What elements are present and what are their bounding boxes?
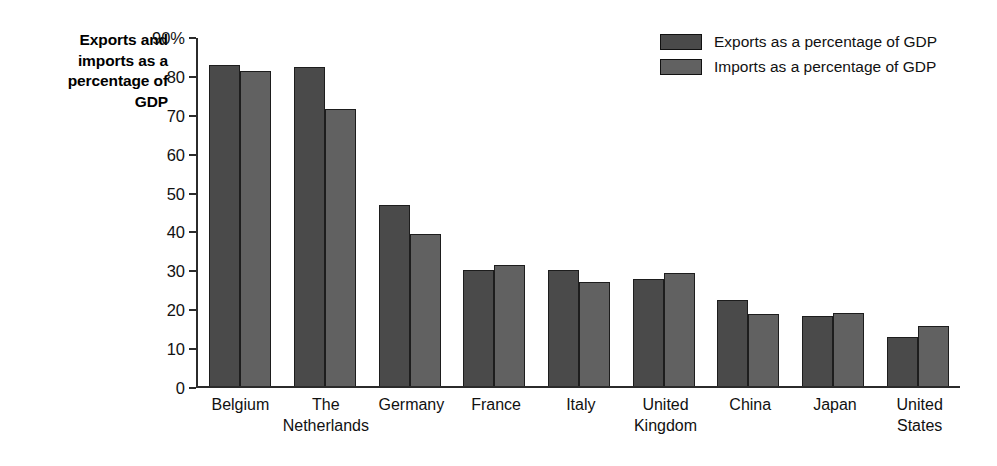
axis-title-line: percentage of: [20, 71, 168, 92]
y-tick-label: 90%: [152, 29, 185, 48]
category-label: UnitedKingdom: [623, 394, 708, 436]
y-tick-label: 40: [167, 223, 185, 242]
y-tick-label: 10: [167, 340, 185, 359]
category-label-line: The: [283, 394, 369, 415]
x-axis-line: [196, 386, 960, 388]
bar-chart: Exports andimports as apercentage ofGDP …: [0, 0, 997, 466]
y-tick-label: 70: [167, 106, 185, 125]
category-label: TheNetherlands: [283, 394, 369, 436]
category-label: China: [708, 394, 793, 436]
bar-imports: [918, 326, 949, 386]
category-label-line: Germany: [369, 394, 454, 415]
bar-imports: [494, 265, 525, 386]
category-label-line: Italy: [538, 394, 623, 415]
bar-exports: [802, 316, 833, 386]
bar-exports: [887, 337, 918, 386]
y-tick: [189, 309, 196, 311]
bar-group: [875, 38, 960, 386]
category-label: Belgium: [198, 394, 283, 436]
bar-group: [367, 38, 452, 386]
bar-imports: [240, 71, 271, 386]
y-tick: [189, 231, 196, 233]
bar-exports: [294, 67, 325, 386]
category-label-line: France: [454, 394, 539, 415]
y-tick: [189, 193, 196, 195]
bar-group: [791, 38, 876, 386]
category-label: UnitedStates: [877, 394, 962, 436]
category-label-line: States: [877, 415, 962, 436]
bar-group: [621, 38, 706, 386]
y-tick-label: 60: [167, 145, 185, 164]
bar-imports: [579, 282, 610, 386]
category-label-line: China: [708, 394, 793, 415]
bar-imports: [664, 273, 695, 386]
bar-exports: [548, 270, 579, 386]
y-tick-label: 30: [167, 262, 185, 281]
category-label: Germany: [369, 394, 454, 436]
category-label-line: United: [623, 394, 708, 415]
bar-imports: [833, 313, 864, 386]
bar-exports: [633, 279, 664, 386]
y-tick-label: 50: [167, 184, 185, 203]
y-tick-label: 20: [167, 301, 185, 320]
category-label-line: Japan: [793, 394, 878, 415]
plot-area: 0102030405060708090%: [196, 38, 960, 388]
axis-title-line: Exports and: [20, 30, 168, 51]
category-label-line: Kingdom: [623, 415, 708, 436]
y-tick: [189, 387, 196, 389]
y-tick: [189, 154, 196, 156]
category-label-line: Belgium: [198, 394, 283, 415]
category-label: France: [454, 394, 539, 436]
axis-title-line: GDP: [20, 92, 168, 113]
category-label-line: United: [877, 394, 962, 415]
axis-title: Exports andimports as apercentage ofGDP: [20, 30, 168, 112]
y-tick: [189, 115, 196, 117]
bar-group: [198, 38, 283, 386]
category-label: Italy: [538, 394, 623, 436]
y-tick: [189, 348, 196, 350]
bar-exports: [717, 300, 748, 386]
y-tick: [189, 37, 196, 39]
bar-group: [706, 38, 791, 386]
bars-layer: [198, 38, 960, 386]
x-axis-category-labels: BelgiumTheNetherlandsGermanyFranceItalyU…: [198, 394, 962, 436]
bar-exports: [379, 205, 410, 386]
bar-exports: [209, 65, 240, 386]
category-label: Japan: [793, 394, 878, 436]
bar-imports: [325, 109, 356, 386]
bar-group: [283, 38, 368, 386]
category-label-line: Netherlands: [283, 415, 369, 436]
y-tick-label: 0: [176, 379, 185, 398]
bar-exports: [463, 270, 494, 386]
y-tick: [189, 270, 196, 272]
y-tick-label: 80: [167, 67, 185, 86]
bar-imports: [748, 314, 779, 386]
bar-group: [452, 38, 537, 386]
y-tick: [189, 76, 196, 78]
axis-title-line: imports as a: [20, 51, 168, 72]
bar-imports: [410, 234, 441, 386]
bar-group: [537, 38, 622, 386]
